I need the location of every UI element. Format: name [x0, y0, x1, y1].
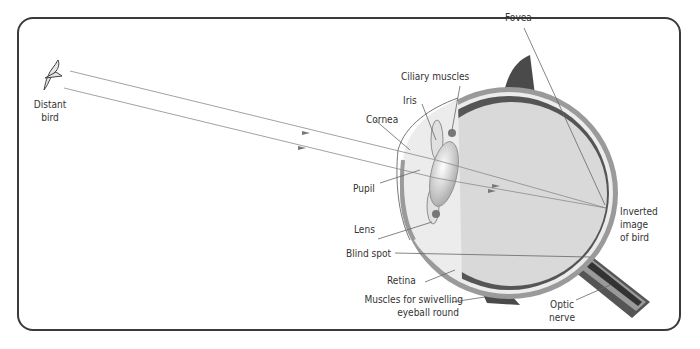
- label-retina: Retina: [387, 274, 416, 287]
- label-ciliary-muscles: Ciliary muscles: [401, 70, 469, 83]
- ciliary-muscle-lower: [432, 210, 440, 218]
- label-fovea: Fovea: [505, 11, 532, 24]
- label-distant-bird: Distant bird: [31, 98, 69, 124]
- label-blind-spot: Blind spot: [346, 247, 391, 260]
- eye-diagram: [0, 0, 700, 349]
- label-iris: Iris: [403, 94, 417, 107]
- bird-icon: [44, 60, 62, 90]
- label-pupil: Pupil: [353, 182, 375, 195]
- label-inverted-image: Inverted image of bird: [620, 205, 658, 244]
- ciliary-muscle-upper: [448, 129, 456, 137]
- label-cornea: Cornea: [366, 113, 398, 126]
- label-lens: Lens: [354, 223, 375, 236]
- label-optic-nerve: Optic nerve: [547, 298, 576, 324]
- label-swivel-muscles: Muscles for swivelling eyeball round: [364, 293, 459, 319]
